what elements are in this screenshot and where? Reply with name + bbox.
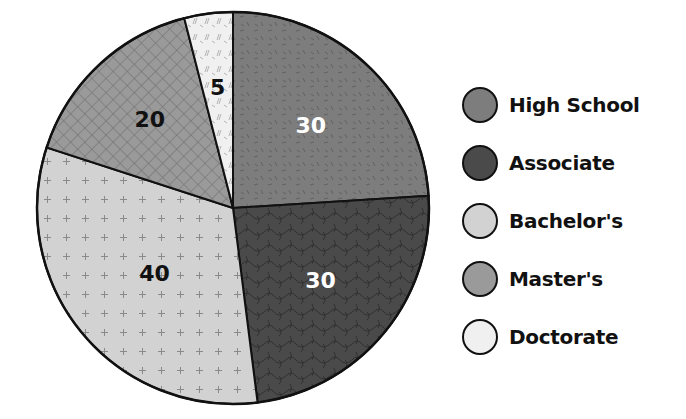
legend-swatch-icon [462, 87, 498, 123]
legend-swatch-icon [462, 145, 498, 181]
legend-label: Doctorate [509, 325, 618, 349]
legend-label: Associate [509, 151, 615, 175]
slice-value-label: 30 [296, 113, 327, 138]
legend-label: High School [509, 93, 640, 117]
legend-swatch-icon [462, 261, 498, 297]
slice-value-label: 30 [305, 268, 336, 293]
legend-swatch-icon [462, 319, 498, 355]
legend-item-associate: Associate [462, 134, 640, 192]
legend-label: Bachelor's [509, 209, 623, 233]
legend-item-bachelors: Bachelor's [462, 192, 640, 250]
legend-item-doctorate: Doctorate [462, 308, 640, 366]
pie-slice-high-school [233, 12, 429, 208]
legend-swatch-icon [462, 203, 498, 239]
pie-slice-associate [233, 196, 429, 403]
legend-item-high-school: High School [462, 76, 640, 134]
slice-value-label: 5 [210, 75, 225, 100]
slice-value-label: 40 [139, 261, 170, 286]
legend: High School Associate Bachelor's Master'… [462, 76, 640, 366]
legend-item-masters: Master's [462, 250, 640, 308]
legend-label: Master's [509, 267, 603, 291]
slice-value-label: 20 [135, 107, 166, 132]
